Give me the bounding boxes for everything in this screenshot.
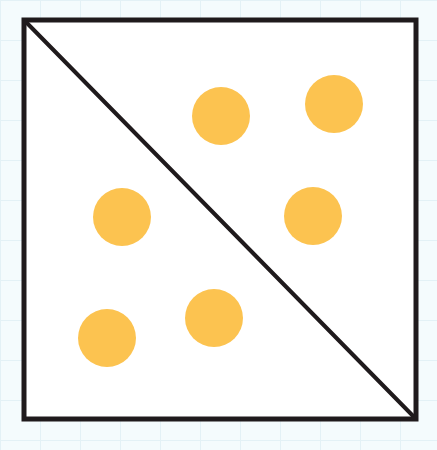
dot-lower-left [185,289,243,347]
dot-lower-left [93,188,151,246]
dot-upper-right [284,187,342,245]
dot-lower-left [78,309,136,367]
dot-upper-right [305,75,363,133]
dot-upper-right [192,87,250,145]
diagram-canvas [0,0,437,450]
